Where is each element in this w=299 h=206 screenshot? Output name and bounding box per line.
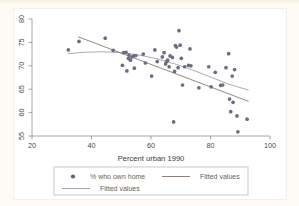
legend-label-own-home: % who own home [90, 173, 145, 180]
y-axis-ticks [29, 19, 33, 136]
scatter-point [235, 114, 239, 118]
figure-panel: 55 60 65 70 75 80 20 40 [14, 9, 286, 199]
x-axis-ticklabels: 20 40 60 80 100 [28, 141, 276, 150]
x-ticklabel-100: 100 [264, 141, 276, 150]
legend-marker-own-home [71, 174, 75, 178]
scatter-chart-svg: 55 60 65 70 75 80 20 40 [14, 9, 286, 199]
page-background: 55 60 65 70 75 80 20 40 [0, 0, 299, 206]
legend-label-fitted-1: Fitted values [200, 173, 240, 180]
scatter-point [173, 70, 177, 74]
y-ticklabel-65: 65 [17, 85, 26, 93]
scatter-point [207, 65, 211, 69]
plot-area: 55 60 65 70 75 80 20 40 [14, 9, 286, 199]
scatter-point [141, 52, 145, 56]
x-ticklabel-40: 40 [88, 141, 96, 150]
scatter-point [103, 36, 107, 40]
scatter-point [179, 56, 183, 60]
legend-label-fitted-2: Fitted values [100, 185, 140, 192]
scatter-point [229, 110, 233, 114]
scatter-point [172, 120, 176, 124]
plot-background [32, 19, 266, 136]
scatter-point [178, 43, 182, 47]
scatter-point [171, 56, 175, 60]
scatter-point [125, 69, 129, 73]
scatter-point [77, 40, 81, 44]
scatter-point [224, 66, 228, 70]
scatter-point [189, 64, 193, 68]
scatter-point [144, 61, 148, 65]
scatter-point [209, 85, 213, 89]
scatter-point [111, 49, 115, 53]
scatter-point [176, 66, 180, 70]
x-axis-ticks [32, 136, 270, 140]
scatter-point [175, 45, 179, 49]
legend: % who own home Fitted values Fitted valu… [54, 167, 248, 195]
scatter-point [134, 54, 138, 58]
scatter-point [153, 48, 157, 52]
scatter-point [221, 83, 225, 87]
y-ticklabel-60: 60 [17, 109, 26, 117]
scatter-point [66, 48, 70, 52]
x-ticklabel-20: 20 [28, 141, 36, 150]
scatter-point [160, 55, 164, 59]
scatter-point [230, 74, 234, 78]
x-axis-title: Percent urban 1990 [118, 154, 185, 163]
scatter-point [150, 74, 154, 78]
scatter-point [166, 58, 170, 62]
scatter-point [228, 97, 232, 101]
scatter-point [231, 100, 235, 104]
scatter-point [162, 51, 166, 55]
scatter-point [188, 47, 192, 51]
scatter-point [183, 65, 187, 69]
scatter-point [197, 86, 201, 90]
y-ticklabel-70: 70 [17, 62, 26, 70]
scatter-point [227, 52, 231, 56]
x-ticklabel-80: 80 [207, 141, 215, 150]
y-ticklabel-55: 55 [17, 132, 26, 140]
scatter-point [181, 83, 185, 87]
scatter-point [245, 117, 249, 121]
scatter-point [236, 130, 240, 134]
y-axis-ticklabels: 55 60 65 70 75 80 [17, 15, 26, 140]
scatter-point [129, 58, 133, 62]
scatter-point [155, 60, 159, 64]
legend-border [54, 167, 248, 195]
scatter-point [233, 68, 237, 72]
scatter-point [213, 71, 217, 75]
scatter-point [124, 50, 128, 54]
y-ticklabel-75: 75 [17, 38, 26, 46]
scatter-point [167, 65, 171, 69]
scatter-point [177, 29, 181, 33]
scatter-point [121, 63, 125, 67]
x-ticklabel-60: 60 [147, 141, 155, 150]
scatter-point [132, 66, 136, 70]
y-ticklabel-80: 80 [17, 15, 26, 23]
